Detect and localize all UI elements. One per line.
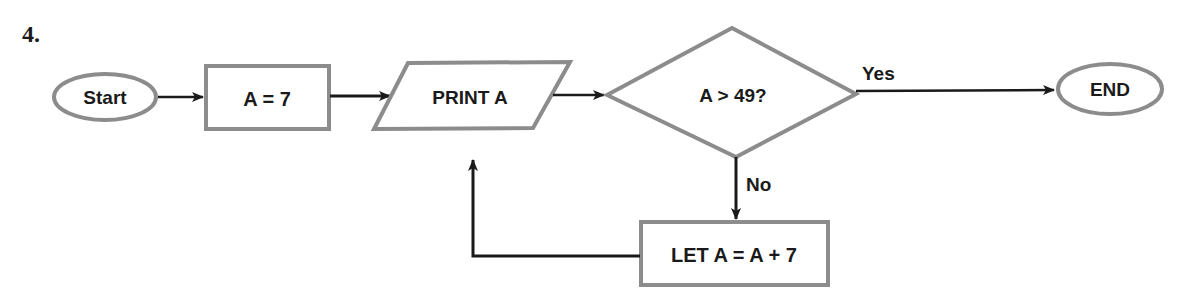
increment-node: LET A = A + 7 — [641, 222, 828, 285]
decision-node: A > 49? — [607, 28, 856, 157]
flowchart: 4. Start A = 7 PRINT A A > 49? Yes END N… — [0, 0, 1190, 302]
arrow-loop-to-print — [473, 160, 640, 256]
decision-label: A > 49? — [699, 85, 766, 106]
increment-label: LET A = A + 7 — [671, 244, 797, 266]
print-label: PRINT A — [432, 87, 508, 108]
arrow-yes-to-end — [856, 90, 1054, 91]
end-label: END — [1090, 79, 1130, 100]
assign-label: A = 7 — [243, 88, 291, 110]
start-label: Start — [83, 87, 127, 108]
assign-node: A = 7 — [206, 66, 329, 129]
problem-number: 4. — [22, 21, 40, 47]
start-node: Start — [54, 74, 156, 120]
end-node: END — [1058, 64, 1162, 114]
yes-label: Yes — [862, 63, 895, 84]
no-label: No — [746, 174, 771, 195]
print-node: PRINT A — [374, 62, 570, 129]
